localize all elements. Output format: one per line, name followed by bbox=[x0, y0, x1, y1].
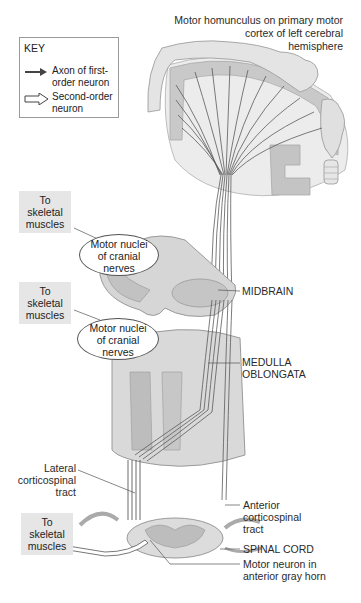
hollow-arrow-icon bbox=[24, 93, 50, 105]
target-1-line2: skeletal bbox=[19, 206, 71, 218]
nuclei-1-line2: of cranial bbox=[80, 250, 158, 262]
homunculus-label: Motor homunculus on primary motor cortex… bbox=[174, 14, 343, 53]
nuclei-1-line3: nerves bbox=[80, 262, 158, 274]
target-skeletal-muscles-3: To skeletal muscles bbox=[21, 513, 73, 555]
midbrain-label: MIDBRAIN bbox=[242, 285, 293, 297]
anterior-tract-line3: tract bbox=[243, 523, 301, 535]
nuclei-2-line1: Motor nuclei bbox=[78, 322, 158, 334]
motor-neuron-line2: anterior gray horn bbox=[243, 570, 326, 582]
nuclei-1-line1: Motor nuclei bbox=[80, 238, 158, 250]
anterior-tract-label: Anterior corticospinal tract bbox=[243, 499, 301, 535]
motor-nuclei-oval-2: Motor nuclei of cranial nerves bbox=[77, 318, 159, 360]
target-skeletal-muscles-2: To skeletal muscles bbox=[19, 282, 71, 324]
target-3-line3: muscles bbox=[21, 540, 73, 552]
legend-first-order-line1: Axon of first- bbox=[52, 65, 109, 77]
target-skeletal-muscles-1: To skeletal muscles bbox=[19, 191, 71, 233]
target-2-line2: skeletal bbox=[19, 297, 71, 309]
homunculus-label-line1: Motor homunculus on primary motor bbox=[174, 14, 343, 27]
medulla-label: MEDULLA OBLONGATA bbox=[242, 356, 306, 380]
lateral-tract-line1: Lateral bbox=[16, 462, 76, 474]
lateral-tract-line3: tract bbox=[16, 486, 76, 498]
medulla-label-line2: OBLONGATA bbox=[242, 368, 306, 380]
motor-neuron-label: Motor neuron in anterior gray horn bbox=[243, 558, 326, 582]
legend-first-order-line2: order neuron bbox=[52, 77, 109, 89]
target-3-line1: To bbox=[21, 516, 73, 528]
medulla-label-line1: MEDULLA bbox=[242, 356, 306, 368]
motor-nuclei-oval-1: Motor nuclei of cranial nerves bbox=[79, 234, 159, 276]
legend-second-order-line2: neuron bbox=[52, 103, 113, 115]
homunculus-label-line2: cortex of left cerebral bbox=[174, 27, 343, 40]
legend-second-order-line1: Second-order bbox=[52, 91, 113, 103]
motor-neuron-line1: Motor neuron in bbox=[243, 558, 326, 570]
lateral-tract-label: Lateral corticospinal tract bbox=[16, 462, 76, 498]
solid-arrow-icon bbox=[24, 68, 48, 78]
nuclei-2-line2: of cranial bbox=[78, 334, 158, 346]
anterior-tract-line2: corticospinal bbox=[243, 511, 301, 523]
target-3-line2: skeletal bbox=[21, 528, 73, 540]
spinal-cord-label: SPINAL CORD bbox=[243, 543, 314, 555]
anterior-tract-line1: Anterior bbox=[243, 499, 301, 511]
target-1-line3: muscles bbox=[19, 218, 71, 230]
nuclei-2-line3: nerves bbox=[78, 346, 158, 358]
target-2-line3: muscles bbox=[19, 309, 71, 321]
lateral-tract-line2: corticospinal bbox=[16, 474, 76, 486]
homunculus-label-line3: hemisphere bbox=[174, 40, 343, 53]
target-1-line1: To bbox=[19, 194, 71, 206]
legend-key: KEY Axon of first- order neuron Second-o… bbox=[19, 37, 119, 118]
legend-title: KEY bbox=[24, 42, 45, 54]
spinal-cord-section bbox=[80, 514, 262, 558]
target-2-line1: To bbox=[19, 285, 71, 297]
